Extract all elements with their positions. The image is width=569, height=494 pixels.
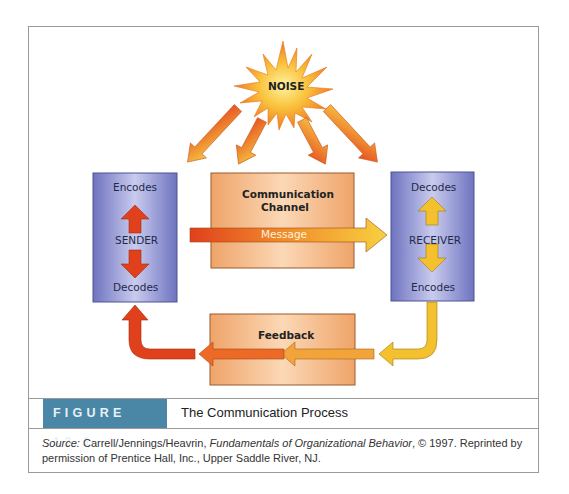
sender-title: SENDER — [115, 234, 158, 246]
feedback-label: Feedback — [258, 329, 314, 341]
feedback-return-arrow-receiver — [379, 302, 437, 366]
receiver-bottom-label: Encodes — [411, 281, 455, 293]
source-prefix: Source: — [42, 437, 80, 449]
channel-title-line2: Channel — [261, 201, 309, 213]
feedback-return-arrow-sender — [122, 305, 195, 359]
receiver-title: RECEIVER — [409, 234, 461, 246]
sender-bottom-label: Decodes — [113, 281, 158, 293]
source-note: Source: Carrell/Jennings/Heavrin, Fundam… — [42, 436, 532, 466]
source-authors: Carrell/Jennings/Heavrin, — [80, 437, 210, 449]
message-label: Message — [261, 228, 307, 240]
source-book-title: Fundamentals of Organizational Behavior — [210, 437, 412, 449]
receiver-top-label: Decodes — [411, 181, 456, 193]
figure-title: The Communication Process — [181, 405, 348, 420]
channel-title-line1: Communication — [242, 188, 334, 200]
noise-label: NOISE — [268, 80, 304, 92]
sender-top-label: Encodes — [113, 181, 157, 193]
figure-number-label: FIGURE 12.1 — [43, 399, 167, 428]
